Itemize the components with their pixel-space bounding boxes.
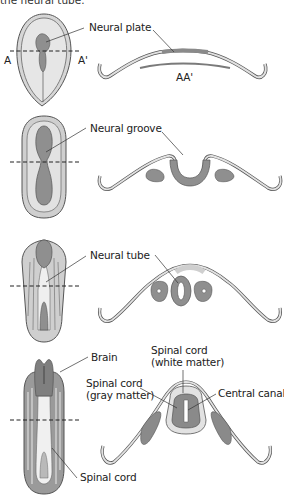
embryo-neural-groove bbox=[10, 116, 86, 218]
marker-aa-prime: AA' bbox=[176, 72, 193, 83]
label-spinal-cord-gray: Spinal cord bbox=[86, 378, 142, 389]
label-gray-matter: (gray matter) bbox=[86, 390, 154, 401]
embryo-neural-tube bbox=[10, 240, 86, 342]
label-brain: Brain bbox=[91, 352, 118, 363]
label-spinal-cord: Spinal cord bbox=[80, 472, 136, 483]
embryo-neural-plate bbox=[10, 14, 84, 106]
label-neural-groove: Neural groove bbox=[90, 123, 162, 134]
embryo-spinal-cord bbox=[10, 357, 88, 494]
label-central-canal: Central canal bbox=[218, 388, 284, 399]
label-spinal-cord-white: Spinal cord bbox=[151, 345, 207, 356]
label-neural-plate: Neural plate bbox=[89, 22, 151, 33]
label-white-matter: (white matter) bbox=[151, 357, 224, 368]
neurulation-diagram bbox=[0, 0, 284, 496]
marker-a: A bbox=[4, 55, 11, 66]
marker-a-prime: A' bbox=[78, 55, 88, 66]
cross-section-neural-tube bbox=[100, 255, 281, 321]
label-neural-tube: Neural tube bbox=[90, 250, 150, 261]
cross-section-neural-groove bbox=[99, 132, 280, 189]
